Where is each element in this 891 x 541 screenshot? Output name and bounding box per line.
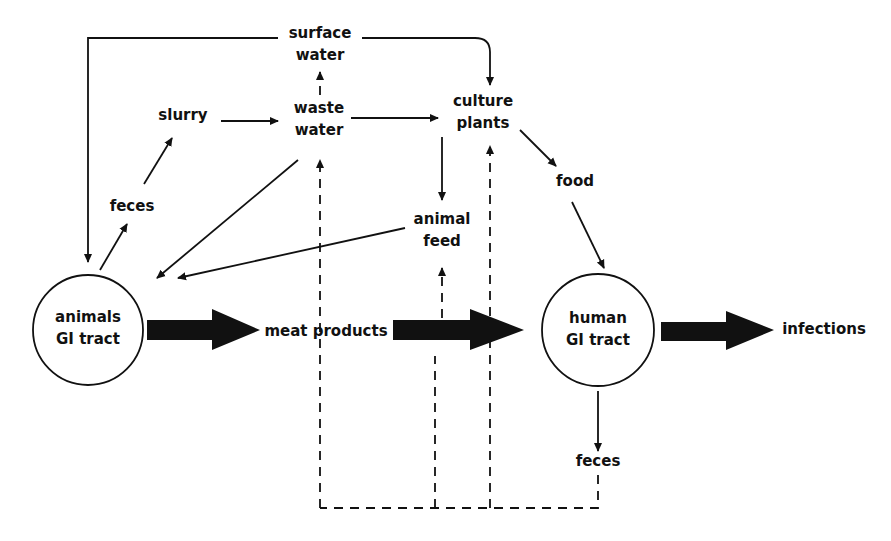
node-label-line2: plants xyxy=(447,112,519,134)
edge-animal-feed-to-animals xyxy=(178,228,405,278)
edge-feces-to-slurry xyxy=(144,138,172,184)
node-label-line1: waste xyxy=(288,97,350,119)
node-culture-plants: culture plants xyxy=(447,90,519,134)
node-label-line1: human xyxy=(558,307,638,329)
node-label-line2: water xyxy=(288,44,352,66)
edge-human-feces-return-loop xyxy=(320,475,598,508)
node-label-line2: water xyxy=(288,119,350,141)
edge-surface-water-to-animals xyxy=(88,38,278,262)
node-label-line2: GI tract xyxy=(48,328,128,350)
node-label-line2: feed xyxy=(407,230,477,252)
node-feces-animals: feces xyxy=(105,195,159,217)
node-surface-water: surface water xyxy=(288,22,352,66)
edge-food-to-human xyxy=(572,202,604,268)
edge-waste-water-to-animals xyxy=(157,160,298,278)
node-animal-feed: animal feed xyxy=(407,208,477,252)
edge-animals-to-feces xyxy=(100,224,127,270)
node-animals-gi-tract: animals GI tract xyxy=(48,306,128,350)
node-food: food xyxy=(553,170,597,192)
node-label-line2: GI tract xyxy=(558,329,638,351)
node-label-line1: culture xyxy=(447,90,519,112)
node-meat-products: meat products xyxy=(264,320,388,342)
node-label-line1: surface xyxy=(288,22,352,44)
edge-culture-plants-to-food xyxy=(520,130,556,166)
diagram-canvas xyxy=(0,0,891,541)
node-infections: infections xyxy=(778,318,870,340)
node-label-line1: animal xyxy=(407,208,477,230)
bold-arrow-human-to-infections xyxy=(661,311,774,350)
node-label-line1: animals xyxy=(48,306,128,328)
node-slurry: slurry xyxy=(152,104,214,126)
bold-arrow-animals-to-meat xyxy=(147,309,260,350)
node-waste-water: waste water xyxy=(288,97,350,141)
bold-arrow-meat-to-human xyxy=(393,309,524,350)
node-feces-human: feces xyxy=(571,450,625,472)
node-human-gi-tract: human GI tract xyxy=(558,307,638,351)
edge-surface-water-to-culture-plants xyxy=(362,38,490,85)
